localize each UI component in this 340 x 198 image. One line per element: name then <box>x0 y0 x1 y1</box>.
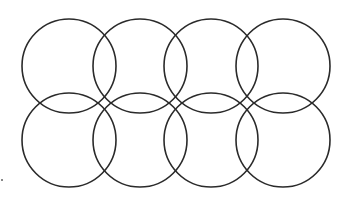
overlapping-circles-diagram <box>0 0 340 198</box>
circle-row2-3 <box>164 93 258 187</box>
circle-row1-3 <box>164 19 258 113</box>
circle-row1-1 <box>22 19 116 113</box>
circle-row1-2 <box>93 19 187 113</box>
circle-row2-1 <box>22 93 116 187</box>
diagram-canvas <box>0 0 340 198</box>
circle-row2-4 <box>236 93 330 187</box>
circle-row1-4 <box>236 19 330 113</box>
stray-dot <box>1 179 3 181</box>
circle-row2-2 <box>93 93 187 187</box>
